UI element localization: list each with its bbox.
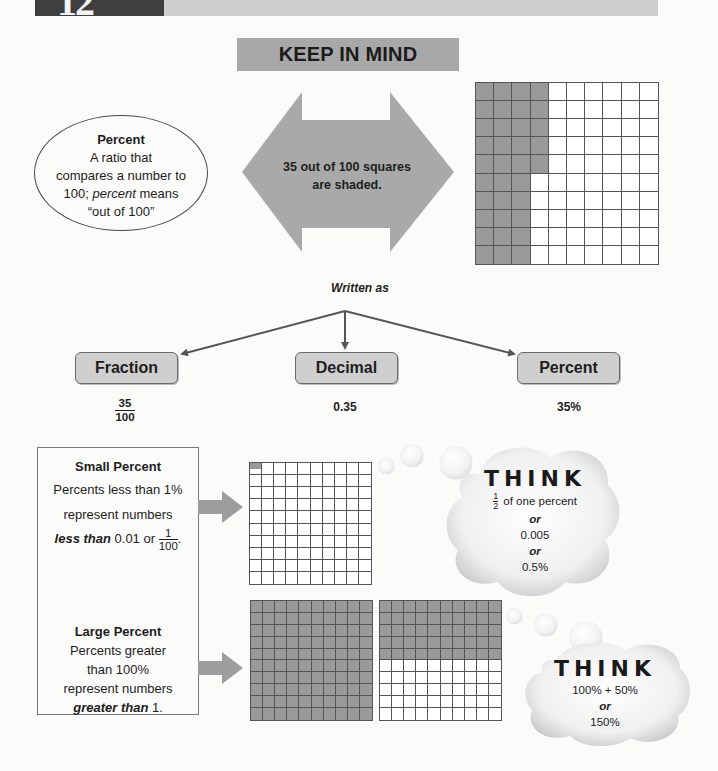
grid-square [380, 637, 392, 649]
grid-square [250, 560, 262, 572]
grid-square [263, 660, 275, 672]
grid-square [251, 684, 263, 696]
grid-square [428, 708, 440, 720]
grid-square [585, 228, 603, 246]
thought-bubble-medium-icon [401, 445, 423, 467]
grid-square [251, 696, 263, 708]
grid-square [489, 672, 501, 684]
grid-square [477, 708, 489, 720]
grid-square [274, 524, 286, 536]
grid-square [380, 660, 392, 672]
think-2-or: or [540, 698, 670, 714]
grid-square [380, 613, 392, 625]
grid-square [360, 672, 372, 684]
grid-square [347, 548, 359, 560]
grid-square [275, 696, 287, 708]
decimal-box: Decimal [295, 352, 398, 384]
grid-square [250, 572, 262, 584]
grid-square [549, 155, 567, 173]
grid-square [324, 637, 336, 649]
grid-square [336, 684, 348, 696]
grid-square [453, 684, 465, 696]
grid-square [348, 696, 360, 708]
grid-square [465, 637, 477, 649]
thought-bubble-medium-icon [535, 614, 557, 636]
grid-square [287, 613, 299, 625]
large-percent-title: Large Percent [38, 622, 198, 641]
grid-square [298, 548, 310, 560]
grid-square [392, 601, 404, 613]
grid-square [262, 560, 274, 572]
grid-square [603, 174, 621, 192]
grid-square [380, 601, 392, 613]
grid-square [549, 192, 567, 210]
grid-square [441, 660, 453, 672]
grid-square [299, 708, 311, 720]
grid-square [359, 548, 371, 560]
grid-square [380, 708, 392, 720]
grid-square [274, 560, 286, 572]
grid-square [250, 536, 262, 548]
grid-square [298, 499, 310, 511]
double-arrow-text-line-2: are shaded. [272, 176, 422, 194]
grid-square [640, 119, 658, 137]
grid-square [262, 499, 274, 511]
grid-square [622, 228, 640, 246]
grid-square [477, 672, 489, 684]
grid-square [287, 660, 299, 672]
grid-square [494, 246, 512, 264]
grid-square [392, 684, 404, 696]
grid-square [286, 511, 298, 523]
grid-square [359, 511, 371, 523]
grid-square [251, 660, 263, 672]
grid-square [441, 708, 453, 720]
grid-square [603, 228, 621, 246]
grid-square [262, 572, 274, 584]
grid-square [476, 83, 494, 101]
grid-square [489, 708, 501, 720]
grid-square [348, 601, 360, 613]
think-cloud-1-text: THINK 12 of one percent or 0.005 or 0.5% [470, 466, 600, 575]
fraction-numerator: 35 [115, 397, 134, 411]
grid-square [324, 649, 336, 661]
grid-square [404, 696, 416, 708]
grid-square [299, 625, 311, 637]
large-percent-section: Large Percent Percents greater than 100%… [38, 622, 198, 717]
grid-square [477, 684, 489, 696]
grid-square [262, 548, 274, 560]
grid-square [622, 192, 640, 210]
grid-square [335, 560, 347, 572]
grid-square [311, 499, 323, 511]
grid-square [287, 637, 299, 649]
small-large-percent-box: Small Percent Percents less than 1% repr… [37, 447, 199, 715]
small-frac-numerator: 1 [159, 527, 178, 540]
grid-square [360, 649, 372, 661]
grid-square [348, 637, 360, 649]
grid-square [275, 625, 287, 637]
grid-square [392, 660, 404, 672]
grid-square [494, 228, 512, 246]
grid-square [512, 155, 530, 173]
grid-square [494, 119, 512, 137]
grid-square [287, 696, 299, 708]
grid-square [489, 660, 501, 672]
grid-square [476, 210, 494, 228]
grid-square [476, 192, 494, 210]
grid-square [298, 487, 310, 499]
grid-square [262, 463, 274, 475]
grid-square [416, 649, 428, 661]
grid-square [336, 649, 348, 661]
small-percent-line-3-post: 0.01 or [111, 531, 159, 546]
grid-square [477, 696, 489, 708]
grid-square [263, 601, 275, 613]
grid-square [323, 548, 335, 560]
grid-square [311, 463, 323, 475]
grid-square [567, 192, 585, 210]
grid-square [494, 192, 512, 210]
grid-square [360, 696, 372, 708]
think-1-line-1: 12 of one percent [470, 492, 600, 511]
grid-square [453, 613, 465, 625]
grid-square [622, 246, 640, 264]
grid-square [494, 137, 512, 155]
small-percent-trailing: . [178, 531, 182, 546]
